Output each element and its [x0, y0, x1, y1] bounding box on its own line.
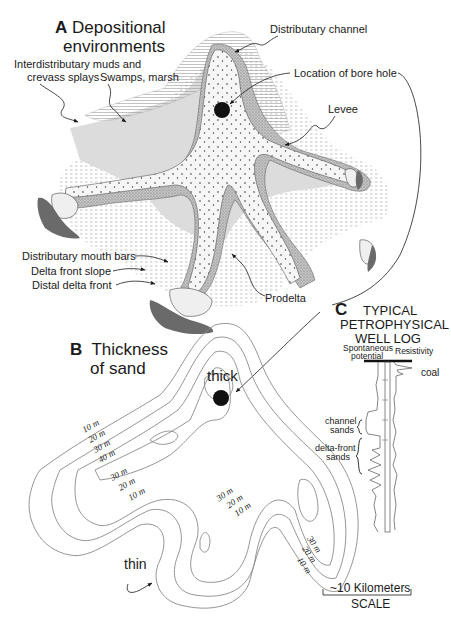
scale-label: SCALE: [351, 598, 390, 610]
panel-b-title-line1: Thickness: [91, 340, 168, 359]
contour-inner-right: [298, 479, 318, 521]
bore-hole-marker-b: [213, 390, 229, 406]
label-prodelta: Prodelta: [265, 292, 306, 304]
c-to-b-arrow: [236, 312, 320, 392]
panel-c-well-log: [356, 361, 412, 532]
label-swamps-marsh: Swamps, marsh: [100, 71, 179, 83]
contour-40m: [95, 368, 230, 480]
label-interdistributary-2: crevass splays: [27, 71, 99, 83]
panel-c-title-line2: PETROPHYSICAL: [340, 318, 449, 332]
sp-label-2: potential: [351, 352, 383, 361]
label-mouth-bars: Distributary mouth bars: [22, 250, 136, 262]
label-interdistributary-1: Interdistributary muds and: [14, 58, 141, 70]
panel-a-title-line1: Depositional: [72, 18, 166, 37]
panel-b-title-line2: of sand: [90, 359, 146, 378]
panel-a-title: A Depositional: [55, 18, 166, 37]
panel-c-title-line1: TYPICAL: [363, 304, 417, 318]
coal-label: coal: [421, 368, 439, 377]
leader-interdistributary: [40, 84, 78, 122]
resistivity-label: Resistivity: [395, 347, 433, 356]
bore-hole-marker-a: [214, 102, 230, 118]
panel-b-title: B Thickness: [70, 340, 168, 359]
panel-a-title-line2: environments: [63, 37, 165, 56]
contour-inner-mid: [200, 533, 210, 553]
sp-curve: [366, 362, 381, 532]
label-bore-hole: Location of bore hole: [294, 67, 397, 79]
delta-front-label-2: sands: [326, 453, 350, 462]
panel-b-letter: B: [70, 340, 82, 359]
label-delta-front-slope: Delta front slope: [31, 265, 111, 277]
channel-sands-label-2: sands: [330, 426, 354, 435]
scale-value: ~10 Kilometers: [330, 582, 410, 594]
log-depth-track: [385, 362, 390, 532]
panel-a-letter: A: [55, 18, 67, 37]
label-levee: Levee: [328, 103, 358, 115]
label-thick: thick: [207, 370, 238, 382]
label-distributary-channel: Distributary channel: [270, 23, 367, 35]
label-distal-delta-front: Distal delta front: [32, 279, 111, 291]
brace-channel-sands: [357, 420, 362, 434]
resistivity-curve: [393, 362, 412, 530]
brace-delta-front-sands: [356, 438, 362, 474]
contour-inner-left: [150, 431, 178, 444]
label-thin: thin: [124, 558, 147, 570]
thin-arrow: [127, 583, 152, 592]
